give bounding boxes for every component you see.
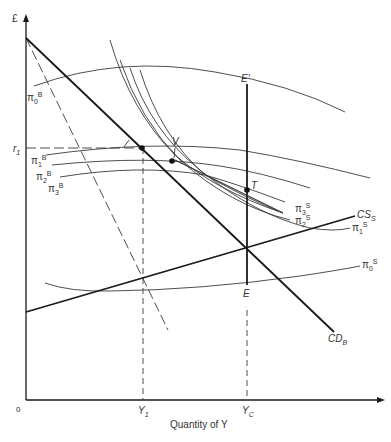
y-axis-arrow-icon	[23, 14, 29, 22]
main-lines: CDB CSS	[26, 38, 376, 346]
pi2b-curve	[52, 160, 310, 188]
v-pointer	[174, 148, 175, 158]
v-label: V	[172, 136, 180, 147]
pi0s-label: π0S	[362, 258, 378, 272]
v-point	[169, 158, 175, 164]
pi1s-curve	[130, 68, 350, 230]
pi1b-label: π1B	[31, 154, 47, 168]
j-pointer	[124, 140, 129, 147]
x-axis-label: Quantity of Y	[170, 419, 228, 430]
pi2b-label: π2B	[36, 170, 52, 184]
cs-s-line	[26, 216, 355, 312]
y-axis-label: £	[12, 13, 18, 24]
origin-label: 0	[16, 405, 21, 414]
x-axis-arrow-icon	[377, 397, 385, 403]
yc-tick-label: YC	[242, 405, 255, 418]
contract-curve-diagram: £ 0 Quantity of Y Y1 YC r1 π0B π1B π2B π…	[0, 0, 391, 442]
t-label: T	[251, 180, 258, 191]
y1-tick-label: Y1	[138, 405, 149, 418]
seller-isoprofit-curves: π3S π2S π1S π0S	[45, 40, 378, 291]
pi2s-curve	[120, 60, 290, 220]
pi3s-tail	[140, 70, 283, 213]
e-label: E	[243, 288, 250, 299]
pi0s-curve	[45, 266, 360, 291]
e-prime-label: E'	[241, 73, 251, 84]
v-t-segment	[175, 160, 283, 213]
points: E' E V T	[124, 73, 258, 299]
cd-b-line	[26, 38, 334, 332]
guide-lines	[26, 38, 247, 400]
buyer-isoprofit-curves: π0B π1B π2B π3B	[27, 66, 370, 202]
t-point	[244, 187, 250, 193]
j-point	[139, 145, 145, 151]
pi1s-label: π1S	[352, 221, 368, 235]
pi2s-label: π2S	[295, 214, 311, 228]
pi0b-label: π0B	[27, 91, 43, 105]
r1-tick-label: r1	[13, 143, 20, 156]
cd-b-label: CDB	[328, 333, 347, 346]
pi3b-label: π3B	[48, 182, 64, 196]
